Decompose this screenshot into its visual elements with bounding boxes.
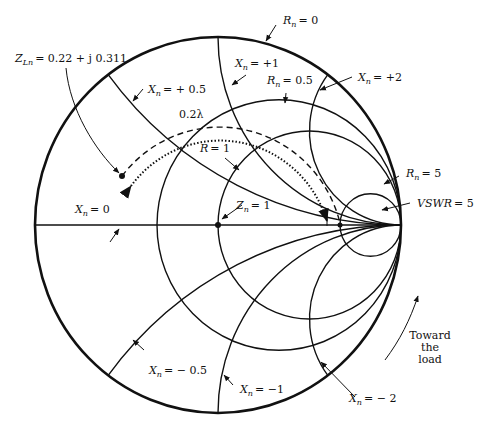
label-zn-1: Zn= 1 (235, 199, 271, 214)
smith-chart: ZLn= 0.22 + j 0.311 Rn= 0 Xn= +1 Rn= 0.5… (0, 0, 484, 435)
label-xn-minus-2: Xn= − 2 (348, 392, 396, 407)
label-xn-0: Xn= 0 (74, 203, 110, 218)
label-xn-plus-0.5: Xn= + 0.5 (147, 83, 206, 98)
label-rn-0.5: Rn= 0.5 (266, 74, 313, 89)
reactance-arc-plus-2 (309, 75, 401, 225)
vswr-point (338, 223, 343, 228)
label-vswr: VSWR= 5 (417, 197, 474, 210)
label-r-1: R= 1 (199, 142, 230, 155)
load-point (119, 173, 125, 179)
direction-label-3: load (418, 353, 442, 366)
label-xn-minus-0.5: Xn= − 0.5 (148, 364, 207, 379)
center-point (215, 222, 221, 228)
load-impedance-label: ZLn= 0.22 + j 0.311 (14, 52, 127, 67)
reactance-arc-minus-2 (309, 225, 401, 375)
label-xn-minus-1: Xn= −1 (239, 383, 284, 398)
label-xn-plus-1: Xn= +1 (234, 57, 279, 72)
label-rn-0: Rn= 0 (282, 14, 318, 29)
label-xn-plus-2: Xn= +2 (357, 71, 402, 86)
vswr-circle-arc (122, 127, 340, 223)
wavelength-label: 0.2λ (179, 108, 203, 121)
label-rn-5: Rn= 5 (405, 167, 441, 182)
